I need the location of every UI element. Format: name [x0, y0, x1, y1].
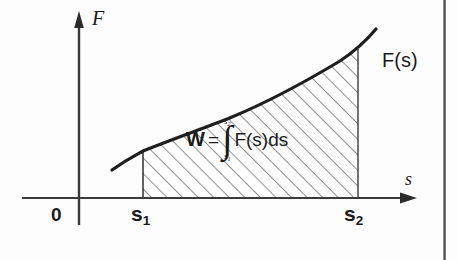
bound-label-s2-base: s: [344, 202, 356, 225]
bound-label-s2: s2: [344, 203, 363, 227]
bound-label-s2-sub: 2: [356, 213, 363, 228]
integral-lower-limit: s1: [224, 152, 231, 162]
formula-equals-sign: =: [208, 129, 219, 151]
scan-edge-stripe: [443, 0, 446, 260]
formula-integrand: F(s)ds: [234, 129, 288, 151]
bound-label-s1: s1: [131, 203, 150, 227]
work-integral-figure: F s 0 s1 s2 F(s) W = s2 ∫ s1 F(s)ds: [0, 0, 458, 260]
axis-label-s: s: [405, 170, 412, 188]
integral-sign: ∫: [222, 128, 232, 152]
curve-label: F(s): [382, 50, 418, 70]
bound-label-s1-sub: 1: [143, 213, 150, 228]
formula-quantity-W: W: [186, 128, 205, 151]
vertical-axis-F: [74, 11, 84, 225]
axis-label-F: F: [92, 8, 104, 28]
integral-with-limits: s2 ∫ s1: [222, 117, 232, 162]
work-integral-formula: W = s2 ∫ s1 F(s)ds: [186, 117, 288, 162]
integral-lower-limit-sub: 1: [227, 155, 230, 162]
bound-label-s1-base: s: [131, 202, 143, 225]
origin-label: 0: [51, 205, 62, 224]
